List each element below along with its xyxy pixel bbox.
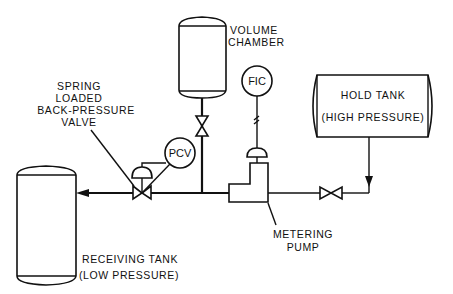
volume-chamber-label-1: VOLUME <box>230 24 278 36</box>
bpv-label-3: BACK-PRESSURE <box>37 104 135 116</box>
receiving-tank-label-2: (LOW PRESSURE) <box>79 269 179 281</box>
flow-arrow-icon <box>76 189 89 197</box>
hold-tank <box>313 75 432 137</box>
receiving-tank-label-1: RECEIVING TANK <box>82 253 178 265</box>
receiving-tank <box>17 166 76 285</box>
hold-tank-label-1: HOLD TANK <box>341 89 406 101</box>
pump-actuator-icon <box>247 148 267 157</box>
bpv-label-1: SPRING <box>57 80 101 92</box>
metering-pump <box>229 163 268 202</box>
pump-label-1: METERING <box>273 228 333 240</box>
process-diagram: VOLUME CHAMBER RECEIVING TANK (LOW PRESS… <box>0 0 453 294</box>
inlet-valve-icon <box>320 187 342 199</box>
bpv-leader-line <box>91 130 134 186</box>
back-pressure-valve-icon <box>132 167 152 199</box>
volume-chamber-label-2: CHAMBER <box>228 36 285 48</box>
bpv-label-2: LOADED <box>56 92 103 104</box>
pcv-signal-line <box>142 163 166 167</box>
pump-leader-line <box>268 203 276 225</box>
volume-chamber <box>179 17 226 98</box>
pump-label-2: PUMP <box>287 241 320 253</box>
down-arrow-icon <box>365 176 373 187</box>
pcv-label: PCV <box>169 147 192 159</box>
bpv-label-4: VALVE <box>61 116 96 128</box>
volume-chamber-valve-icon <box>196 116 208 136</box>
hold-tank-label-2: (HIGH PRESSURE) <box>322 111 425 123</box>
fic-label: FIC <box>248 75 266 87</box>
